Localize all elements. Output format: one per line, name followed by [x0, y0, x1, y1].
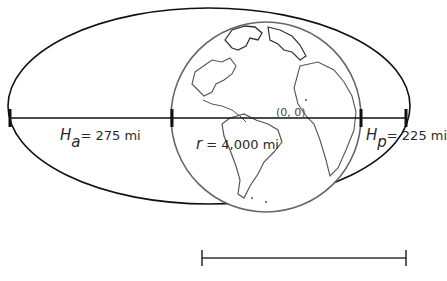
radius-var: r: [196, 135, 202, 153]
perigee-label: Hp= 225 mi: [366, 128, 447, 150]
scale-bar: [202, 250, 406, 266]
apogee-var: H: [60, 126, 71, 144]
perigee-var: H: [366, 126, 377, 144]
apogee-value: = 275 mi: [80, 128, 140, 143]
earth-radius-label: r = 4,000 mi: [196, 137, 279, 152]
origin-label: (0, 0): [276, 106, 306, 119]
radius-value: = 4,000 mi: [206, 137, 279, 152]
perigee-sub: p: [377, 133, 387, 151]
apogee-label: Ha= 275 mi: [60, 128, 141, 150]
perigee-value: = 225 mi: [387, 128, 447, 143]
earth-globe: [171, 22, 361, 212]
